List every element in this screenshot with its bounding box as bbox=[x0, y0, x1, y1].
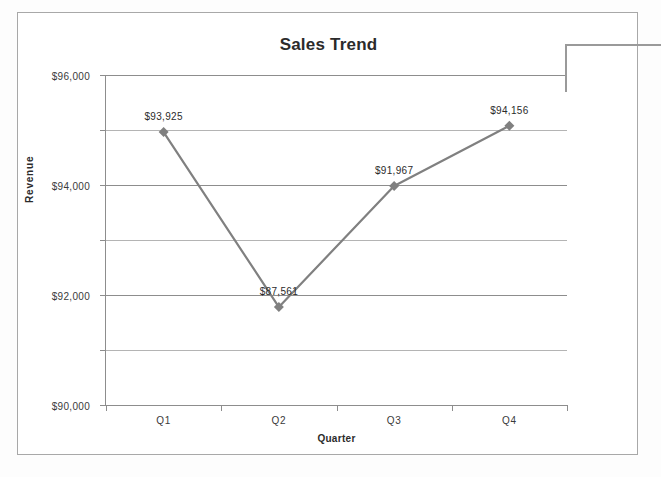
leader-line-vertical bbox=[565, 44, 567, 92]
chart-frame: Sales Trend Revenue Quarter $96,000$94,0… bbox=[17, 12, 638, 455]
leader-line-horizontal bbox=[565, 44, 661, 46]
data-label: $87,561 bbox=[260, 286, 298, 297]
x-tick-mark bbox=[106, 405, 107, 411]
x-tick-mark bbox=[567, 405, 568, 411]
data-point-marker bbox=[504, 121, 514, 131]
x-axis-title: Quarter bbox=[106, 433, 567, 444]
series-line-revenue bbox=[106, 75, 567, 405]
plot-area: $96,000$94,000$92,000$90,000$88,000$86,0… bbox=[106, 75, 567, 405]
data-label: $94,156 bbox=[490, 105, 528, 116]
x-tick-label: Q4 bbox=[502, 415, 517, 426]
x-tick-mark bbox=[337, 405, 338, 411]
x-tick-mark bbox=[452, 405, 453, 411]
y-axis-title: Revenue bbox=[24, 156, 35, 203]
x-tick-label: Q2 bbox=[272, 415, 287, 426]
chart-title: Sales Trend bbox=[18, 35, 639, 55]
y-tick-label: $96,000 bbox=[52, 71, 90, 82]
y-tick-label: $94,000 bbox=[52, 181, 90, 192]
x-tick-label: Q1 bbox=[156, 415, 171, 426]
data-label: $93,925 bbox=[145, 111, 183, 122]
y-tick-label: $90,000 bbox=[52, 401, 90, 412]
x-tick-label: Q3 bbox=[387, 415, 402, 426]
y-tick-label: $92,000 bbox=[52, 291, 90, 302]
leader-line-annotation bbox=[560, 44, 661, 96]
scanned-page: Sales Trend Revenue Quarter $96,000$94,0… bbox=[0, 0, 661, 477]
x-tick-mark bbox=[221, 405, 222, 411]
data-label: $91,967 bbox=[375, 165, 413, 176]
